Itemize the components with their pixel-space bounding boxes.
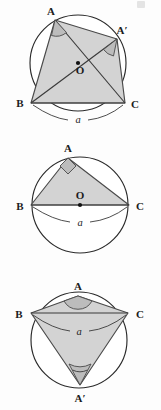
figure-1-label-a-prime: A′ — [116, 24, 127, 36]
figure-1-label-chord: a — [75, 114, 80, 125]
figure-1-label-b: B — [16, 97, 24, 109]
figure-2-label-b: B — [16, 200, 24, 212]
figure-2-label-chord: a — [77, 217, 82, 228]
figure-3-label-chord: a — [76, 326, 81, 337]
figure-2-label-center: O — [76, 189, 85, 201]
figure-1-label-c: C — [131, 98, 139, 110]
figure-2-center-dot — [78, 203, 82, 207]
figure-1-inscribed-acute-angles: A A′ B C O a — [0, 8, 161, 136]
figure-3-label-a: A — [74, 280, 82, 292]
scan-artifact — [137, 1, 145, 8]
figure-2-label-a: A — [64, 142, 72, 154]
figure-3-label-a-prime: A′ — [74, 392, 85, 404]
figure-1-label-a: A — [47, 8, 55, 17]
figure-stack: A A′ B C O a A B C O a A B — [0, 0, 161, 410]
figure-3-label-b: B — [15, 308, 23, 320]
figure-1-label-center: O — [76, 64, 85, 76]
figure-2-label-c: C — [136, 200, 144, 212]
figure-3-opposite-arc-angles: A B C A′ a — [0, 272, 161, 410]
figure-2-thales-right-angle: A B C O a — [0, 140, 161, 268]
figure-3-label-c: C — [136, 308, 144, 320]
